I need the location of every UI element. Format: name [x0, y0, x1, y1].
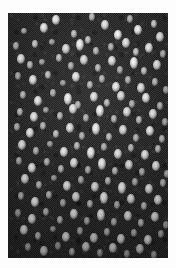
vignette-layer — [8, 13, 168, 258]
micrograph-figure — [0, 0, 176, 268]
micrograph-image-field — [8, 13, 168, 258]
